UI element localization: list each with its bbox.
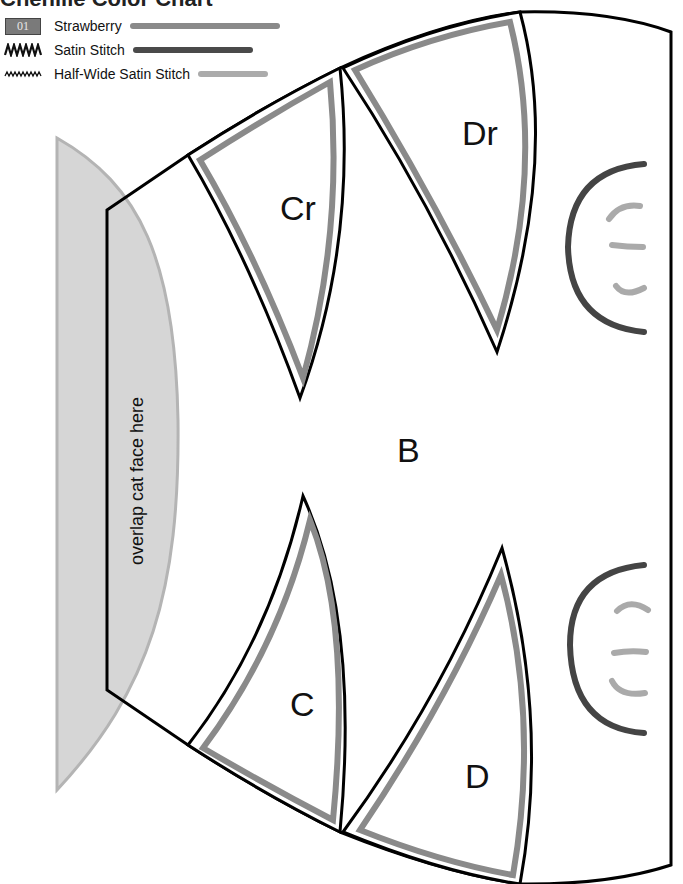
upper-ear-stitch-top bbox=[609, 206, 640, 219]
lower-ear-stitch-bottom bbox=[612, 681, 645, 694]
color-number-chip: 01 bbox=[5, 18, 41, 35]
legend-label: Strawberry bbox=[54, 18, 122, 34]
piece-cr-strawberry bbox=[200, 82, 334, 378]
piece-label-b: B bbox=[397, 431, 420, 469]
piece-label-cr: Cr bbox=[280, 189, 316, 227]
overlap-note: overlap cat face here bbox=[127, 397, 147, 565]
piece-label-dr: Dr bbox=[462, 114, 498, 152]
legend: 01 Strawberry Satin Stitch Half-Wide Sat… bbox=[4, 14, 280, 86]
pattern-diagram: Cr Dr B C D overlap cat face here bbox=[0, 0, 683, 884]
legend-label: Half-Wide Satin Stitch bbox=[54, 66, 190, 82]
piece-dr-strawberry bbox=[355, 22, 525, 330]
half-wide-satin-stitch-zigzag-icon bbox=[4, 64, 42, 84]
piece-label-c: C bbox=[290, 685, 315, 723]
satin-stitch-zigzag-icon bbox=[4, 40, 42, 60]
lower-ear-stitch-middle bbox=[614, 651, 646, 653]
piece-d-strawberry bbox=[360, 575, 524, 875]
legend-item-strawberry: 01 Strawberry bbox=[4, 14, 280, 38]
overlap-region bbox=[57, 138, 178, 790]
legend-item-satin-stitch: Satin Stitch bbox=[4, 38, 280, 62]
legend-label: Satin Stitch bbox=[54, 42, 125, 58]
legend-item-half-wide-satin-stitch: Half-Wide Satin Stitch bbox=[4, 62, 280, 86]
piece-label-d: D bbox=[465, 757, 490, 795]
half-wide-satin-line-sample bbox=[198, 71, 268, 77]
color-swatch: 01 bbox=[4, 16, 42, 36]
piece-c-strawberry bbox=[203, 520, 339, 820]
satin-line-sample bbox=[133, 47, 253, 53]
upper-ear-stitch-middle bbox=[612, 245, 643, 247]
lower-ear-stitch-top bbox=[617, 604, 648, 611]
strawberry-line-sample bbox=[130, 23, 280, 29]
upper-ear-stitch-bottom bbox=[616, 286, 644, 293]
